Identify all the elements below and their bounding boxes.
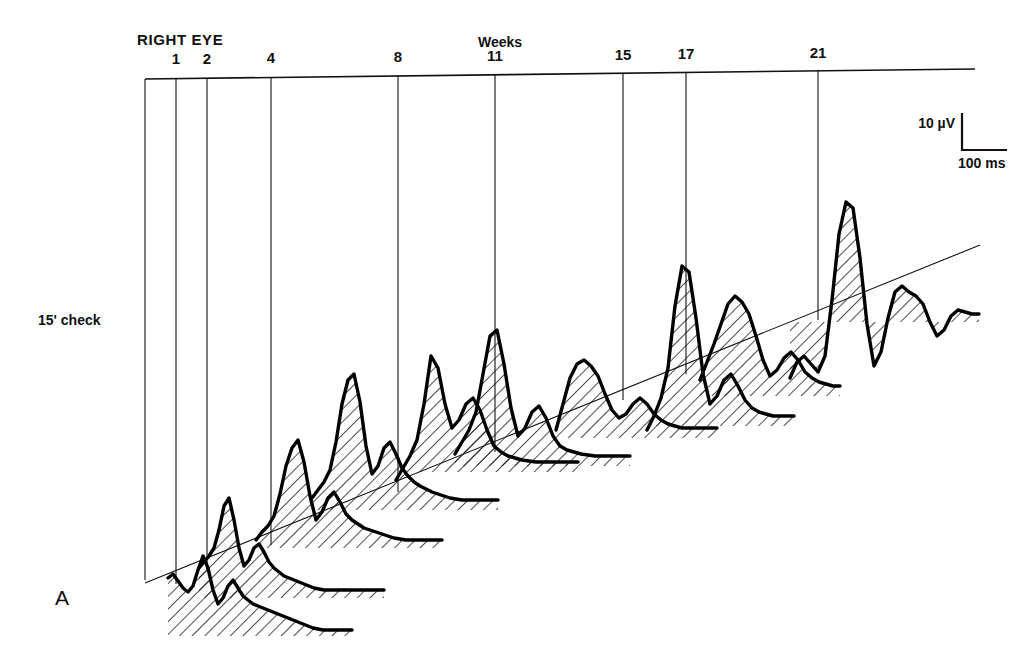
vep-cascade-figure: RIGHT EYE Weeks 15' check A 1 2 4 8 11 1…	[0, 0, 1033, 666]
tick-label-2: 2	[203, 50, 211, 67]
panel-label: A	[55, 586, 69, 609]
tick-label-11: 11	[487, 47, 503, 64]
tick-label-8: 8	[394, 48, 402, 65]
tick-label-4: 4	[267, 49, 276, 66]
scale-bar-amplitude-label: 10 µV	[918, 115, 956, 131]
side-label-check-size: 15' check	[38, 312, 101, 328]
tick-label-21: 21	[810, 44, 827, 61]
figure-canvas: RIGHT EYE Weeks 15' check A 1 2 4 8 11 1…	[0, 0, 1033, 666]
tick-label-1: 1	[172, 50, 180, 67]
tick-label-15: 15	[615, 46, 632, 63]
tick-label-17: 17	[678, 45, 695, 62]
figure-title: RIGHT EYE	[137, 31, 223, 48]
scale-bar-time-label: 100 ms	[958, 155, 1006, 171]
